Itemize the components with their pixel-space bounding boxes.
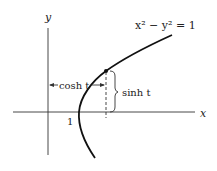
sinh-label: sinh t [122, 87, 150, 98]
tick-one-label: 1 [67, 116, 73, 127]
hyperbola-diagram: y x 1 cosh t sinh t x² − y² = 1 [0, 0, 217, 171]
arrowhead-left-icon [49, 83, 54, 87]
cosh-label: cosh t [59, 80, 89, 91]
x-axis-label: x [200, 107, 207, 120]
sinh-brace [110, 71, 118, 112]
arrowhead-right-icon [100, 83, 105, 87]
y-axis-label: y [44, 11, 52, 24]
equation-label: x² − y² = 1 [135, 19, 196, 32]
